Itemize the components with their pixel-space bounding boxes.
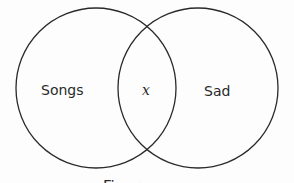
- venn-diagram: Songs x Sad Figure: [0, 0, 294, 183]
- set-label-sad: Sad: [204, 83, 230, 99]
- intersection-label: x: [142, 82, 150, 98]
- set-circle-songs: [16, 8, 176, 168]
- set-label-songs: Songs: [41, 82, 84, 98]
- figure-caption: Figure: [103, 178, 149, 183]
